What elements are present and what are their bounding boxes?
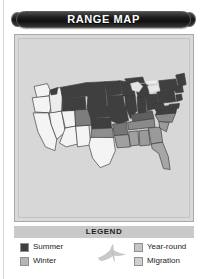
legend-column-right: Year-round Migration <box>134 240 207 268</box>
legend-column-left: Summer Winter <box>20 240 96 268</box>
legend-label-summer: Summer <box>33 243 63 251</box>
legend-swatch-year-round <box>134 243 143 252</box>
legend-swatch-migration <box>134 257 143 266</box>
legend-item-year-round: Year-round <box>134 240 207 254</box>
legend-header: LEGEND <box>14 226 194 238</box>
legend-title: LEGEND <box>86 228 122 236</box>
us-range-map-svg <box>19 39 189 217</box>
page-title: RANGE MAP <box>67 14 140 25</box>
legend-item-migration: Migration <box>134 254 207 268</box>
legend-item-winter: Winter <box>20 254 96 268</box>
title-banner: RANGE MAP <box>16 11 191 28</box>
legend-body: Summer Winter Year-round <box>14 240 194 272</box>
legend-swatch-winter <box>20 257 29 266</box>
map-panel <box>14 34 194 222</box>
flying-bird-glyph <box>96 242 130 268</box>
range-map-widget: RANGE MAP <box>8 0 199 279</box>
map-canvas <box>18 38 190 218</box>
legend-swatch-summer <box>20 243 29 252</box>
legend-label-year-round: Year-round <box>147 243 186 251</box>
legend-label-migration: Migration <box>147 257 180 265</box>
legend: LEGEND Summer Winter <box>14 226 194 272</box>
legend-item-summer: Summer <box>20 240 96 254</box>
title-banner-wrap: RANGE MAP <box>16 11 191 28</box>
legend-label-winter: Winter <box>33 257 56 265</box>
flying-bird-icon <box>96 242 130 268</box>
page-edge-rule <box>3 0 4 279</box>
